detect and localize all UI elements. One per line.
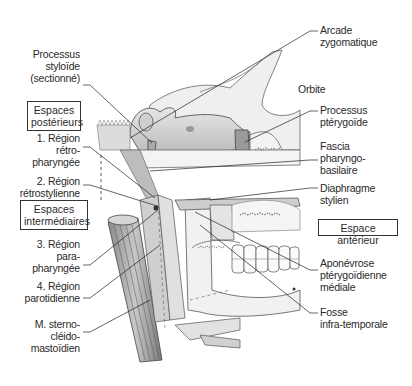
label-region-para-pharyngee: 3. Région para- pharyngée <box>0 238 80 274</box>
label-diaphragme-stylien: Diaphragme stylien <box>320 182 412 206</box>
label-processus-styloide: Processus styloïde (sectionné) <box>0 48 80 84</box>
label-arcade-zygomatique: Arcade zygomatique <box>320 24 412 48</box>
label-processus-pterygoide: Processus ptérygoïde <box>320 104 412 128</box>
label-region-parotidienne: 4. Région parotidienne <box>0 280 80 304</box>
label-region-retrostylienne: 2. Région rétrostylienne <box>0 175 80 199</box>
box-espaces-intermediaires: Espaces intermédiaires <box>20 200 88 230</box>
box-espace-anterieur: Espace antérieur <box>318 219 398 236</box>
mandible <box>175 198 300 348</box>
label-fascia-pharyngo-basilaire: Fascia pharyngo- basilaire <box>320 140 412 176</box>
label-orbite: Orbite <box>298 83 358 95</box>
label-fosse-infra-temporale: Fosse infra-temporale <box>320 306 412 330</box>
label-sterno-cleido-mastoidien: M. sterno- cléido- mastoïdien <box>0 318 80 354</box>
label-aponevrose-pterygoidienne-mediale: Aponévrose ptérygoïdienne médiale <box>320 257 412 293</box>
box-espaces-posterieurs: Espaces postérieurs <box>27 101 81 131</box>
label-region-retro-pharyngee: 1. Région rétro- pharyngée <box>0 132 80 168</box>
